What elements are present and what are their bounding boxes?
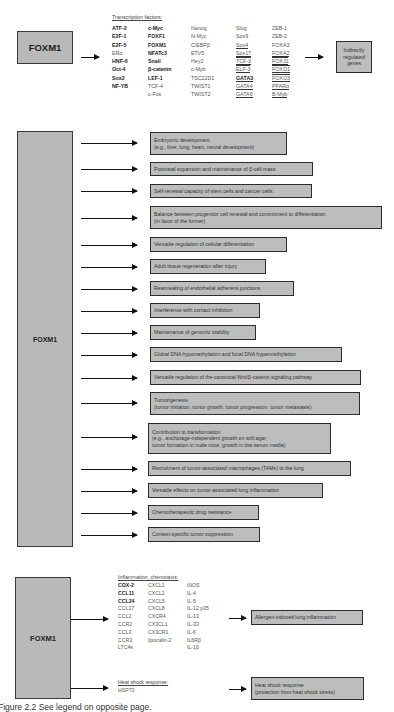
figure-caption: Figure 2.2 See legend on opposite page. — [0, 702, 152, 712]
tf-item: c-Myb — [191, 66, 214, 74]
outcome-subtext: (in favor of the former) — [154, 218, 378, 225]
arrow-outcome-17 — [81, 535, 137, 536]
inflammation-item: CX3CL1 — [148, 621, 171, 629]
foxm1-box-top: FOXM1 — [17, 31, 73, 64]
tf-item: Nanog — [191, 25, 214, 33]
outcome-text: Balance between progenitor cell renewal … — [154, 211, 378, 218]
inflammation-item: CXCL5 — [148, 598, 171, 606]
outcome-box-dna-methylation: Global DNA hypomethylation and focal DNA… — [150, 347, 342, 362]
tf-item: NFATc3 — [148, 50, 172, 58]
outcome-subtext: (e.g., anchorage-independent growth on s… — [152, 435, 327, 442]
outcome-text: Recruitment of tumor-associated macropha… — [152, 465, 347, 472]
arrow-outcome-10 — [81, 355, 137, 356]
outcome-text: Allergen-induced lung inflammation — [255, 614, 359, 621]
inflammation-item: CXCL8 — [148, 605, 171, 613]
outcome-text: Versatile effects on tumor-associated lu… — [152, 487, 319, 494]
arrow-outcome-4 — [81, 218, 137, 219]
tf-item: TSC22D1 — [191, 75, 214, 83]
arrow-outcome-5 — [81, 245, 137, 246]
arrow-outcome-3 — [81, 191, 137, 192]
inflammation-item: CX3CR1 — [148, 629, 171, 637]
inflammation-header: Inflammation, chemotaxis: — [118, 574, 178, 580]
tf-item-underlined: Sox4 — [236, 42, 253, 50]
inflammation-item: CXCR4 — [148, 613, 171, 621]
outcome-box-genomic-stability: Maintenance of genomic stability — [150, 325, 256, 340]
foxm1-label: FOXM1 — [29, 42, 62, 53]
outcome-text: Interference with contact inhibition — [154, 307, 256, 314]
outcome-box-allergen-inflammation: Allergen-induced lung inflammation — [251, 610, 363, 625]
transcription-factors-header: Transcription factors: — [112, 14, 162, 20]
inflammation-item: CCL17 — [118, 605, 134, 613]
arrow-outcome-14 — [81, 469, 137, 470]
inflammation-item: IL-1β — [187, 644, 209, 652]
inflammation-item: CCR3 — [118, 637, 134, 645]
outcome-text: Tumorigenesis — [154, 397, 356, 404]
outcome-subtext: (protection from heat shock stress) — [255, 689, 360, 696]
inflammation-item: CCL11 — [118, 590, 134, 598]
tf-column-2: c-Myc FOXF1 FOXM1 NFATc3 Snail β-catenin… — [148, 25, 172, 99]
outcome-box-beta-cell-mass: Postnatal expansion and maintenance of β… — [150, 162, 313, 176]
outcome-box-tissue-regeneration: Adult tissue regeneration after injury — [150, 259, 266, 274]
arrow-outcome-8 — [81, 311, 137, 312]
inflammation-item: LTC4s — [118, 644, 134, 652]
tf-item: HNF-6 — [112, 58, 128, 66]
tf-item-underlined: GATA4 — [236, 83, 253, 91]
outcome-subtext: (tumor initiation, tumor growth, tumor p… — [154, 404, 356, 411]
outcome-box-lung-inflammation: Versatile effects on tumor-associated lu… — [148, 483, 323, 498]
arrow-outcome-1 — [81, 143, 137, 144]
inflammation-column-3: iNOS IL-4 IL-5 IL-12 p35 IL-13 IL-33 IL-… — [187, 582, 209, 652]
inflammation-item: IL-6 — [187, 629, 209, 637]
arrow-outcome-7 — [81, 289, 137, 290]
foxm1-box-middle: FOXM1 — [17, 131, 73, 547]
inflammation-item: CCR2 — [118, 621, 134, 629]
inflammation-item: IL-33 — [187, 621, 209, 629]
tf-column-3: Nanog N-Myc C/EBPβ ETV5 Hey2 c-Myb TSC22… — [191, 25, 214, 99]
arrow-to-inflammation-list — [71, 619, 108, 620]
inflammation-column-2: CXCL1 CXCL2 CXCL5 CXCL8 CXCR4 CX3CL1 CX3… — [148, 582, 171, 644]
arrow-outcome-6 — [81, 267, 137, 268]
outcome-text: Chemotherapeutic drug resistance — [152, 509, 255, 516]
outcome-box-cellular-differentiation: Versatile regulation of cellular differe… — [150, 237, 287, 252]
outcome-text: Adult tissue regeneration after injury — [154, 263, 262, 270]
heat-shock-header: Heat shock response: — [118, 679, 168, 685]
outcome-text: Versatile regulation of cellular differe… — [154, 241, 283, 248]
outcome-box-contact-inhibition: Interference with contact inhibition — [150, 303, 260, 318]
outcome-box-tumorigenesis: Tumorigenesis (tumor initiation, tumor g… — [150, 392, 360, 415]
outcome-text: Heat shock response — [255, 682, 360, 689]
arrow-outcome-2 — [81, 169, 137, 170]
outcome-box-heat-shock: Heat shock response (protection from hea… — [251, 677, 364, 700]
arrow-to-transcription-factors — [81, 57, 99, 58]
inflammation-item: COX-2 — [118, 582, 134, 590]
arrow-to-heat-shock-outcome — [229, 689, 246, 690]
foxm1-label: FOXM1 — [30, 634, 56, 643]
inflammation-item: IL-12 p35 — [187, 605, 209, 613]
tf-item: ZEB-1 — [272, 25, 290, 33]
outcome-text: Postnatal expansion and maintenance of β… — [154, 166, 309, 173]
tf-item: E2F-5 — [112, 42, 128, 50]
inflammation-column-1: COX-2 CCL11 CCL24 CCL17 CCL2 CCR2 CCL3 C… — [118, 582, 134, 652]
tf-item: E2F-1 — [112, 33, 128, 41]
tf-item: ERα — [112, 50, 128, 58]
tf-item: Slug — [236, 25, 253, 33]
outcome-text: Embryonic development — [154, 137, 283, 144]
foxm1-label: FOXM1 — [33, 336, 57, 343]
outcome-subtext: (e.g., liver, lung, heart, neural develo… — [154, 144, 283, 151]
arrow-outcome-11 — [81, 378, 137, 379]
outcome-text: Reannealing of endothelial adherens junc… — [154, 285, 290, 292]
tf-item: c-Fos — [148, 91, 172, 99]
inflammation-item: CCL2 — [118, 613, 134, 621]
tf-item-underlined: ELF-3 — [236, 66, 253, 74]
arrow-outcome-16 — [81, 513, 137, 514]
tf-item: Hey2 — [191, 58, 214, 66]
arrow-to-allergen-inflammation — [229, 618, 246, 619]
tf-item: ATF-2 — [112, 25, 128, 33]
outcome-text: Maintenance of genomic stability — [154, 329, 252, 336]
tf-item-underlined: GATA6 — [236, 91, 253, 99]
outcome-box-tumor-suppression: Context-specific tumor suppression — [148, 527, 260, 542]
outcome-box-drug-resistance: Chemotherapeutic drug resistance — [148, 505, 259, 520]
outcome-box-adherens-junctions: Reannealing of endothelial adherens junc… — [150, 281, 294, 296]
outcome-text: Global DNA hypomethylation and focal DNA… — [154, 351, 338, 358]
outcome-box-transformation: Contribution to transformation (e.g., an… — [148, 423, 331, 454]
tf-item: β-catenin — [148, 66, 172, 74]
tf-item: ETV5 — [191, 50, 214, 58]
